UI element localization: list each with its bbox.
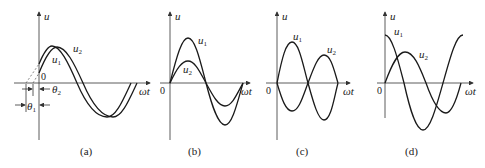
u2-label: u2 xyxy=(327,43,337,57)
y-axis-label: u xyxy=(390,10,396,22)
u1-label: u1 xyxy=(198,34,208,48)
caption-b: (b) xyxy=(188,145,201,158)
u1-label: u1 xyxy=(394,25,404,39)
x-axis-label: ωt xyxy=(465,85,477,97)
u2-extension xyxy=(26,64,39,83)
panel-d: u 0 u1 u2 ωt (d) xyxy=(377,10,477,158)
caption-a: (a) xyxy=(80,145,93,158)
origin-label: 0 xyxy=(41,71,46,82)
caption-d: (d) xyxy=(405,145,418,158)
u2-label: u2 xyxy=(419,48,429,62)
y-axis-label: u xyxy=(175,10,181,22)
x-axis-label: ωt xyxy=(139,85,151,97)
x-axis-label: ωt xyxy=(241,85,253,97)
x-axis-label: ωt xyxy=(343,85,355,97)
theta2-label: θ2 xyxy=(52,83,61,97)
u2-label: u2 xyxy=(73,42,83,56)
y-axis-label: u xyxy=(282,10,288,22)
caption-c: (c) xyxy=(296,145,309,158)
panel-c: u 0 u1 u2 ωt (c) xyxy=(266,10,355,158)
u1-label: u1 xyxy=(52,53,62,67)
phase-difference-figure: u 0 u2 u1 θ2 θ1 ωt (a) u 0 u1 u2 ωt (b) xyxy=(0,0,485,168)
panel-b: u 0 u1 u2 ωt (b) xyxy=(160,10,253,158)
y-axis-label: u xyxy=(44,10,50,22)
u2-label: u2 xyxy=(183,63,193,77)
u1-label: u1 xyxy=(293,30,303,44)
panel-a: u 0 u2 u1 θ2 θ1 ωt (a) xyxy=(14,10,151,158)
origin-label: 0 xyxy=(266,85,271,96)
theta1-label: θ1 xyxy=(27,100,36,114)
curve-u1 xyxy=(170,38,243,125)
curve-u2 xyxy=(170,61,243,106)
u1-extension xyxy=(33,73,39,83)
origin-label: 0 xyxy=(160,85,165,96)
origin-label: 0 xyxy=(377,85,382,96)
